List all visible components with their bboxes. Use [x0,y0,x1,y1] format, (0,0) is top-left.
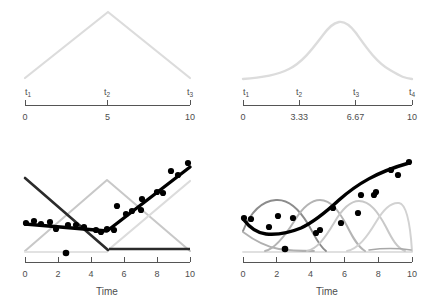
data-point [290,215,296,221]
data-point [406,159,412,165]
data-point [168,168,174,174]
cubic-basis-curve [243,22,412,79]
panel-bottom-left: 0 2 4 6 8 10 Time [0,148,218,300]
tick-label-333: 3.33 [291,112,309,122]
tick-label-4: 4 [88,269,93,279]
data-point [317,227,323,233]
knot-label-t3: t3 [353,87,360,98]
tick-label-8: 8 [154,269,159,279]
bottom-left-plot: 0 2 4 6 8 10 Time [0,148,218,300]
data-point [53,226,59,232]
tick-label-0: 0 [22,112,27,122]
data-point [355,210,361,216]
basis-baseline-shadow [369,249,411,251]
data-point [81,224,87,230]
data-point [282,246,289,253]
top-left-axis [25,100,190,105]
tick-label-0: 0 [240,269,245,279]
basis-hat-scaled [25,180,190,251]
knot-label-t2: t2 [104,87,111,98]
data-point [104,226,110,232]
knot-label-t1: t1 [243,87,250,98]
data-point [38,221,44,227]
tick-label-10: 10 [185,112,195,122]
panel-bottom-right: 0 2 4 6 8 10 Time [219,148,437,300]
bottom-right-plot: 0 2 4 6 8 10 Time [219,148,437,300]
data-point [123,211,129,217]
data-point [373,189,379,195]
data-point [139,196,145,202]
data-point [388,167,394,173]
data-point [266,224,272,230]
tick-label-0: 0 [240,112,245,122]
tick-label-4: 4 [308,269,313,279]
data-point [129,208,135,214]
tick-label-10: 10 [407,112,417,122]
data-point [185,160,191,166]
top-right-plot: t1 t2 t3 t4 0 3.33 6.67 10 [219,0,437,125]
tick-label-2: 2 [55,269,60,279]
tick-label-8: 8 [376,269,381,279]
panel-top-right: t1 t2 t3 t4 0 3.33 6.67 10 [219,0,437,125]
panel-top-left: t1 t2 t3 0 5 10 [0,0,218,125]
bottom-right-axis [243,257,412,262]
knot-label-t3: t3 [187,87,194,98]
x-axis-title: Time [96,286,118,297]
knot-label-t2: t2 [296,87,303,98]
knot-label-t4: t4 [409,87,416,98]
tick-label-5: 5 [105,112,110,122]
tick-label-10: 10 [407,269,417,279]
hat-basis-curve [25,12,190,78]
bottom-left-axis [25,257,190,262]
data-point [395,172,401,178]
tick-label-6: 6 [121,269,126,279]
data-points [241,159,412,252]
data-point [330,205,336,211]
data-point [31,218,37,224]
tick-label-0: 0 [22,269,27,279]
data-point [111,227,117,233]
tick-label-10: 10 [185,269,195,279]
data-point [241,215,247,221]
tick-label-2: 2 [274,269,279,279]
data-point [138,207,144,213]
spline-basis-figure: t1 t2 t3 0 5 10 t1 t2 t3 t4 0 3.33 6.67 [0,0,437,300]
data-point [338,220,344,226]
data-point [358,192,364,198]
data-point [154,189,160,195]
data-point [47,219,53,225]
basis-curve-1 [243,200,326,251]
tick-label-6: 6 [342,269,347,279]
data-point [63,250,70,257]
data-point [248,216,254,222]
x-axis-title: Time [316,286,338,297]
top-left-plot: t1 t2 t3 0 5 10 [0,0,218,125]
data-point [73,222,79,228]
data-point [65,222,71,228]
knot-label-t1: t1 [25,87,32,98]
basis-curve-2 [265,200,365,251]
data-point [114,203,120,209]
data-point [160,190,166,196]
data-point [98,229,104,235]
data-point [23,220,29,226]
data-point [275,213,281,219]
data-points [23,160,191,256]
tick-label-667: 6.67 [347,112,365,122]
data-point [175,172,181,178]
top-right-axis [243,100,412,105]
